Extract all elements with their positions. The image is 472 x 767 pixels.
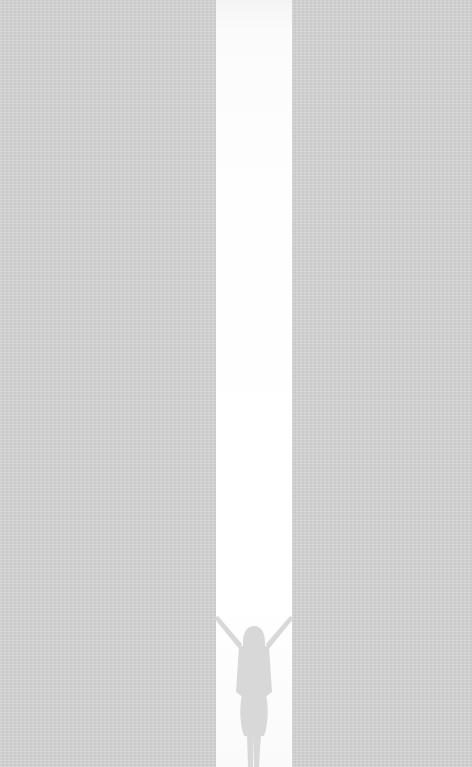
woman-silhouette	[212, 612, 296, 767]
